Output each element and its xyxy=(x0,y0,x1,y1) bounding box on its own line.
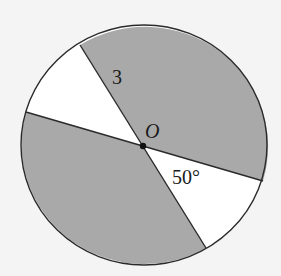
center-point xyxy=(140,143,146,149)
center-label: O xyxy=(145,120,159,142)
circle-diagram: 3 O 50° xyxy=(0,0,281,276)
radius-label: 3 xyxy=(112,66,122,88)
diagram-canvas: 3 O 50° xyxy=(0,0,281,276)
angle-label: 50° xyxy=(172,166,200,188)
